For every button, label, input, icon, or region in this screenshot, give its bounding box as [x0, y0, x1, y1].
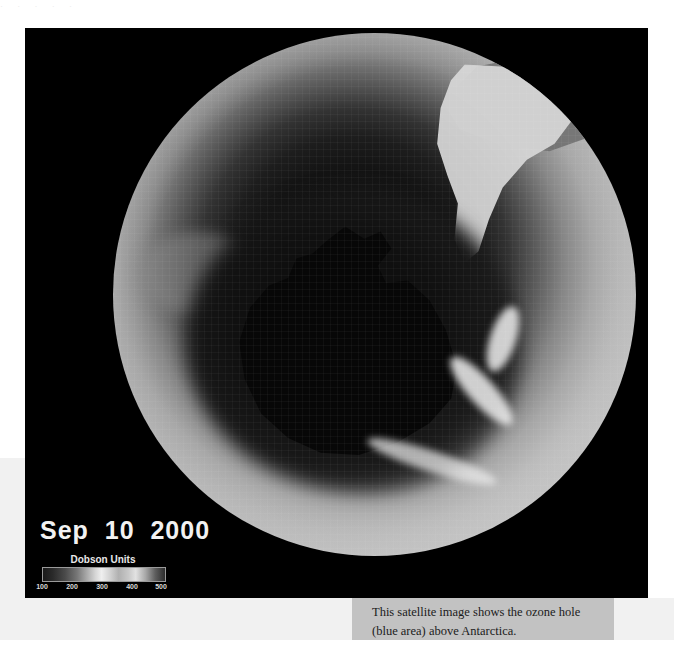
legend-title: Dobson Units [39, 554, 167, 565]
page-root: · · · · · Sep 10 2000 Dobson Unit [0, 0, 674, 647]
caption-text: This satellite image shows the ozone hol… [372, 603, 604, 641]
page-top-bleed-text: · · · · · [0, 0, 674, 13]
dobson-units-legend: Dobson Units 100 200 300 400 500 [39, 554, 167, 594]
legend-tick-300: 300 [96, 583, 108, 590]
legend-tick-500: 500 [155, 583, 167, 590]
legend-tick-100: 100 [36, 583, 48, 590]
legend-tick-400: 400 [126, 583, 138, 590]
legend-tick-200: 200 [66, 583, 78, 590]
globe-container [25, 28, 648, 598]
legend-tick-labels: 100 200 300 400 500 [39, 583, 167, 594]
earth-globe-ozone-map [113, 33, 636, 556]
satellite-photo-plate: Sep 10 2000 Dobson Units 100 200 300 400… [25, 28, 648, 598]
date-stamp: Sep 10 2000 [40, 516, 210, 545]
legend-color-bar [42, 567, 166, 582]
